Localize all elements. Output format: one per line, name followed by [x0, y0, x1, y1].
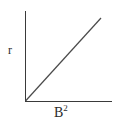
x-axis-label-exponent: 2	[63, 103, 68, 113]
x-axis-label: B2	[54, 106, 68, 120]
x-axis-label-base: B	[54, 105, 63, 120]
y-axis-label: r	[8, 44, 12, 56]
data-line-r-vs-b-squared	[26, 18, 102, 101]
plot-figure: r B2	[0, 0, 119, 127]
